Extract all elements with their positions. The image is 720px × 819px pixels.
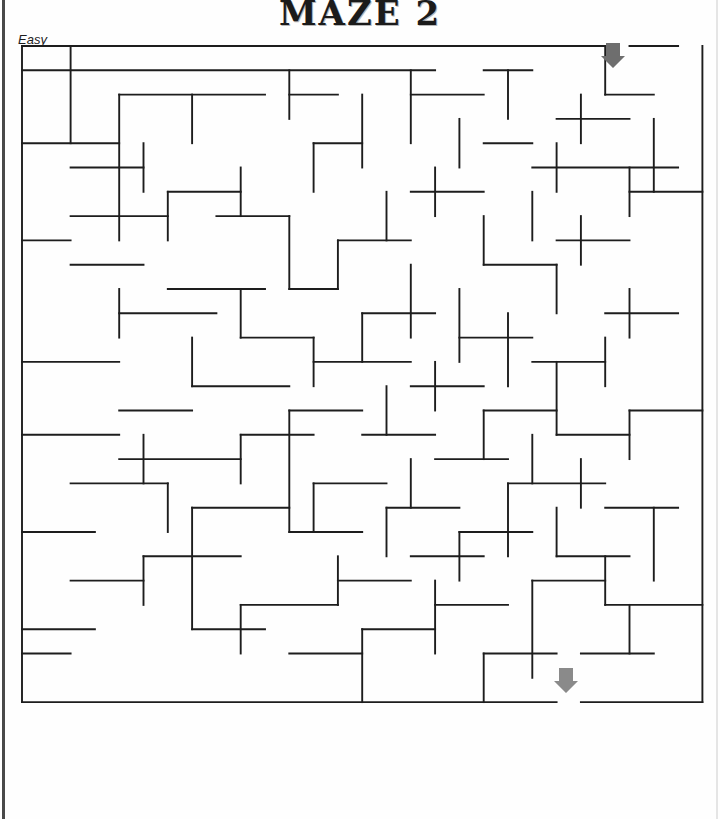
maze-exit-arrow-icon [554, 668, 578, 693]
maze-wall-group [22, 46, 702, 702]
maze-puzzle [0, 0, 720, 819]
maze-svg [0, 0, 720, 819]
maze-marker-group [554, 43, 625, 693]
scanned-page: MAZE 2 Easy [0, 0, 720, 819]
